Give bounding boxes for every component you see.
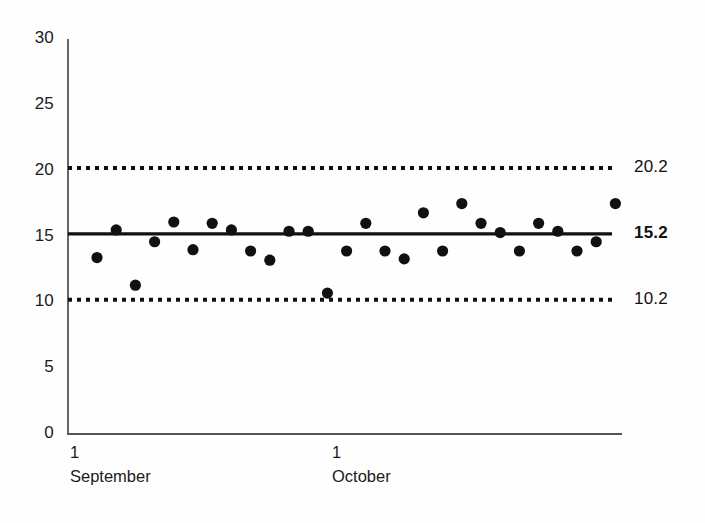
data-point bbox=[245, 245, 256, 256]
x-tick-month: October bbox=[332, 465, 391, 489]
data-point bbox=[437, 245, 448, 256]
data-point bbox=[514, 245, 525, 256]
y-tick-label: 30 bbox=[12, 28, 54, 48]
data-point bbox=[418, 207, 429, 218]
data-point bbox=[475, 218, 486, 229]
data-point bbox=[149, 236, 160, 247]
data-point bbox=[399, 253, 410, 264]
data-point bbox=[552, 226, 563, 237]
data-point bbox=[264, 255, 275, 266]
x-tick-day: 1 bbox=[70, 441, 151, 465]
data-point bbox=[283, 226, 294, 237]
data-point bbox=[591, 236, 602, 247]
data-point bbox=[456, 198, 467, 209]
data-point bbox=[168, 216, 179, 227]
data-point bbox=[341, 245, 352, 256]
data-point bbox=[495, 227, 506, 238]
lower-control-limit-label: 10.2 bbox=[634, 289, 668, 309]
y-tick-label: 25 bbox=[12, 94, 54, 114]
data-point bbox=[322, 288, 333, 299]
control-chart: 051015202530 20.215.210.2 1September1Oct… bbox=[0, 0, 705, 523]
data-point bbox=[226, 224, 237, 235]
data-point bbox=[130, 280, 141, 291]
x-tick-day: 1 bbox=[332, 441, 391, 465]
y-tick-label: 0 bbox=[12, 423, 54, 443]
data-point bbox=[571, 245, 582, 256]
data-points-group bbox=[91, 198, 621, 299]
y-tick-label: 20 bbox=[12, 160, 54, 180]
data-point bbox=[533, 218, 544, 229]
center-line-label: 15.2 bbox=[634, 223, 668, 243]
data-point bbox=[91, 252, 102, 263]
data-point bbox=[610, 198, 621, 209]
data-point bbox=[303, 226, 314, 237]
y-tick-label: 10 bbox=[12, 291, 54, 311]
reference-lines-group bbox=[68, 168, 612, 300]
y-tick-label: 15 bbox=[12, 226, 54, 246]
x-tick-september: 1September bbox=[70, 441, 151, 489]
data-point bbox=[111, 224, 122, 235]
data-point bbox=[360, 218, 371, 229]
upper-control-limit-label: 20.2 bbox=[634, 157, 668, 177]
data-point bbox=[379, 245, 390, 256]
x-tick-october: 1October bbox=[332, 441, 391, 489]
data-point bbox=[207, 218, 218, 229]
x-tick-month: September bbox=[70, 465, 151, 489]
data-point bbox=[187, 244, 198, 255]
y-tick-label: 5 bbox=[12, 357, 54, 377]
